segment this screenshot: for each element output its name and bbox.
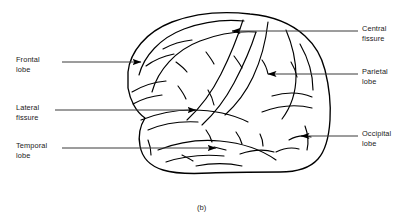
label-lateral-fissure-line1: Lateral	[16, 103, 39, 113]
label-occipital-lobe-line1: Occipital	[362, 129, 391, 139]
brain-sulci-gyri	[132, 20, 313, 166]
label-parietal-lobe: Parietallobe	[362, 67, 388, 86]
label-temporal-lobe: Temporallobe	[16, 141, 47, 160]
figure-caption: (b)	[197, 203, 206, 212]
label-occipital-lobe-line2: lobe	[362, 139, 391, 149]
label-parietal-lobe-line1: Parietal	[362, 67, 388, 77]
label-parietal-lobe-line2: lobe	[362, 77, 388, 87]
label-frontal-lobe: Frontallobe	[16, 55, 40, 74]
label-frontal-lobe-line1: Frontal	[16, 55, 40, 65]
label-lateral-fissure: Lateralfissure	[16, 103, 39, 122]
label-temporal-lobe-line1: Temporal	[16, 141, 47, 151]
brain-anatomy-figure	[0, 0, 412, 223]
label-temporal-lobe-line2: lobe	[16, 151, 47, 161]
label-central-fissure: Centralfissure	[362, 24, 387, 43]
label-central-fissure-line2: fissure	[362, 34, 387, 44]
label-frontal-lobe-line2: lobe	[16, 65, 40, 75]
label-occipital-lobe: Occipitallobe	[362, 129, 391, 148]
label-central-fissure-line1: Central	[362, 24, 387, 34]
label-lateral-fissure-line2: fissure	[16, 113, 39, 123]
